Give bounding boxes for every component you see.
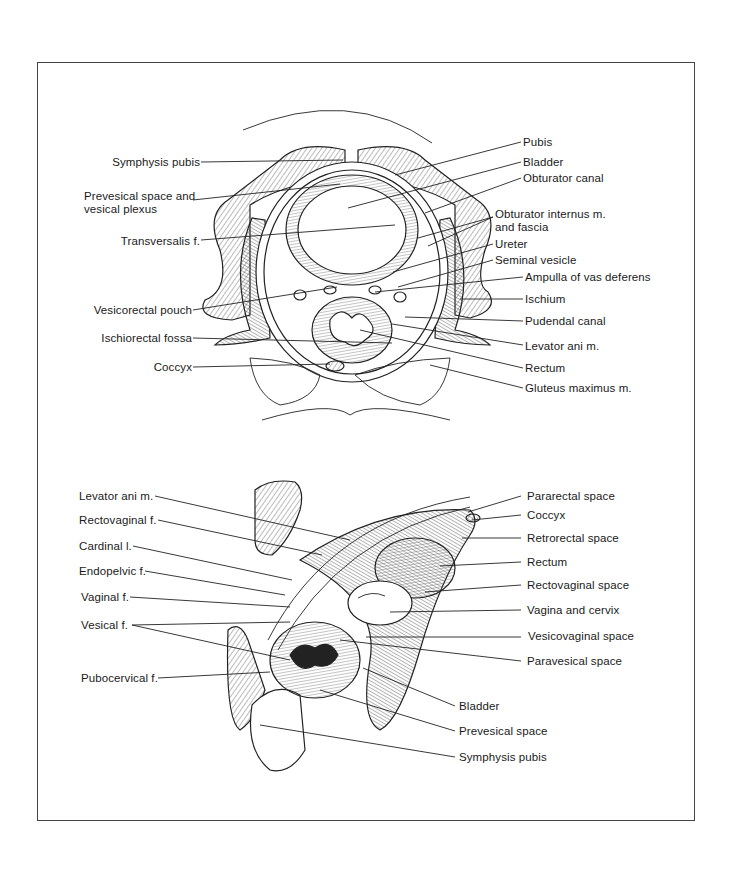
label-pararectal-space: Pararectal space bbox=[527, 490, 615, 503]
skin-outline-bottom bbox=[262, 409, 450, 420]
ischial-bone bbox=[255, 481, 302, 555]
leader-line bbox=[340, 640, 521, 661]
label-prevesical-space: Prevesical space bbox=[459, 725, 548, 738]
symphysis-pubis-shape bbox=[250, 689, 305, 770]
leader-line bbox=[132, 622, 290, 625]
label-ureter: Ureter bbox=[495, 238, 528, 251]
label-rectovaginal-fascia: Rectovaginal f. bbox=[79, 514, 157, 527]
label-endopelvic-fascia: Endopelvic f. bbox=[79, 565, 146, 578]
leader-line bbox=[155, 496, 350, 540]
label-ischium: Ischium bbox=[525, 293, 565, 306]
vagina-cervix-section bbox=[348, 581, 412, 625]
label-vesical-fascia: Vesical f. bbox=[81, 619, 128, 632]
label-levator-ani: Levator ani m. bbox=[79, 490, 153, 503]
coccyx-bone bbox=[326, 361, 344, 371]
leader-line bbox=[145, 571, 285, 595]
label-vesicovaginal-space: Vesicovaginal space bbox=[528, 630, 634, 643]
anatomy-illustrations bbox=[0, 0, 734, 875]
vessel bbox=[394, 292, 406, 302]
vessel bbox=[294, 290, 306, 300]
label-pubis: Pubis bbox=[523, 136, 552, 149]
leader-line bbox=[130, 597, 290, 607]
label-retrorectal-space: Retrorectal space bbox=[527, 532, 619, 545]
skin-outline-top bbox=[243, 110, 432, 143]
label-levator-ani: Levator ani m. bbox=[525, 340, 599, 353]
label-vesicorectal-pouch: Vesicorectal pouch bbox=[94, 304, 192, 317]
label-seminal-vesicle: Seminal vesicle bbox=[495, 254, 576, 267]
label-obturator-canal: Obturator canal bbox=[523, 172, 604, 185]
label-coccyx: Coccyx bbox=[527, 509, 565, 522]
leader-line bbox=[132, 625, 290, 660]
label-gluteus-maximus: Gluteus maximus m. bbox=[525, 382, 632, 395]
label-rectovaginal-space: Rectovaginal space bbox=[527, 579, 629, 592]
label-ischiorectal-fossa: Ischiorectal fossa bbox=[101, 332, 192, 345]
label-cardinal-ligament: Cardinal l. bbox=[79, 540, 132, 553]
label-prevesical-space-vesical-plexus: Prevesical space and vesical plexus bbox=[84, 190, 195, 216]
label-obturator-internus: Obturator internus m. and fascia bbox=[495, 208, 606, 234]
male-pelvis-drawing bbox=[193, 110, 523, 420]
label-rectum: Rectum bbox=[527, 556, 567, 569]
label-vagina-and-cervix: Vagina and cervix bbox=[527, 604, 619, 617]
label-bladder: Bladder bbox=[523, 156, 563, 169]
bladder-lumen bbox=[298, 186, 406, 274]
label-bladder: Bladder bbox=[459, 700, 499, 713]
label-paravesical-space: Paravesical space bbox=[527, 655, 622, 668]
leader-line bbox=[430, 365, 523, 388]
label-ampulla-vas-deferens: Ampulla of vas deferens bbox=[525, 271, 651, 284]
label-rectum: Rectum bbox=[525, 362, 565, 375]
label-symphysis-pubis: Symphysis pubis bbox=[112, 156, 200, 169]
label-vaginal-fascia: Vaginal f. bbox=[81, 591, 129, 604]
label-symphysis-pubis: Symphysis pubis bbox=[459, 751, 547, 764]
label-transversalis-fascia: Transversalis f. bbox=[121, 235, 200, 248]
label-pubocervical-fascia: Pubocervical f. bbox=[81, 672, 158, 685]
label-pudendal-canal: Pudendal canal bbox=[525, 315, 606, 328]
ampulla bbox=[369, 286, 381, 294]
leader-line bbox=[158, 520, 322, 555]
label-coccyx: Coccyx bbox=[154, 361, 192, 374]
leader-line bbox=[468, 496, 521, 512]
coccyx-tip bbox=[466, 514, 480, 522]
